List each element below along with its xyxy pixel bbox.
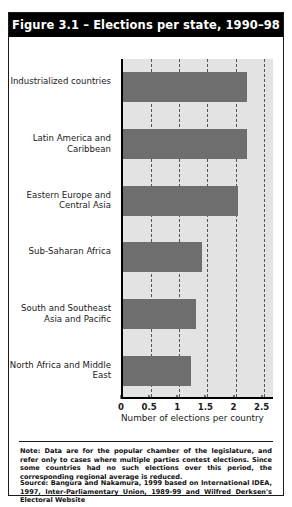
y-axis-label: South and Southeast Asia and Pacific (9, 303, 111, 324)
x-tick-mark (261, 395, 262, 399)
page-title: Figure 3.1 – Elections per state, 1990–9… (12, 18, 280, 32)
bar (123, 299, 196, 329)
bar (123, 186, 238, 216)
y-axis-label: Industrialized countries (9, 76, 111, 87)
bar (123, 242, 202, 272)
figure-page: Figure 3.1 – Elections per state, 1990–9… (0, 0, 292, 507)
x-tick-label: 1.5 (198, 402, 213, 412)
plot-background (121, 59, 273, 399)
figure-title-bar: Figure 3.1 – Elections per state, 1990–9… (9, 13, 283, 37)
x-tick-label: 1 (174, 402, 180, 412)
figure-note: Note: Data are for the popular chamber o… (20, 447, 272, 481)
x-tick-mark (149, 395, 150, 399)
x-tick-label: 0 (118, 402, 124, 412)
x-tick-mark (177, 395, 178, 399)
footer-divider (19, 441, 273, 442)
bar (123, 72, 247, 102)
y-axis-labels: Industrialized countriesLatin America an… (9, 59, 117, 399)
x-tick-label: 2.5 (254, 402, 269, 412)
y-axis-label: Sub-Saharan Africa (9, 246, 111, 257)
x-axis-title: Number of elections per country (121, 413, 291, 423)
figure-source: Source: Bangura and Nakamura, 1999 based… (20, 479, 272, 505)
bar (123, 129, 247, 159)
plot-wrapper (121, 59, 273, 399)
bars-layer (123, 59, 273, 397)
x-tick-mark (121, 395, 122, 399)
bar (123, 356, 191, 386)
x-tick-label: 0.5 (142, 402, 157, 412)
y-axis-label: North Africa and Middle East (9, 360, 111, 381)
chart-area: Industrialized countriesLatin America an… (9, 37, 283, 433)
x-tick-mark (205, 395, 206, 399)
y-axis-label: Latin America and Caribbean (9, 133, 111, 154)
x-tick-label: 2 (231, 402, 237, 412)
figure-container: Figure 3.1 – Elections per state, 1990–9… (8, 12, 284, 496)
y-axis-label: Eastern Europe and Central Asia (9, 190, 111, 211)
x-tick-mark (233, 395, 234, 399)
